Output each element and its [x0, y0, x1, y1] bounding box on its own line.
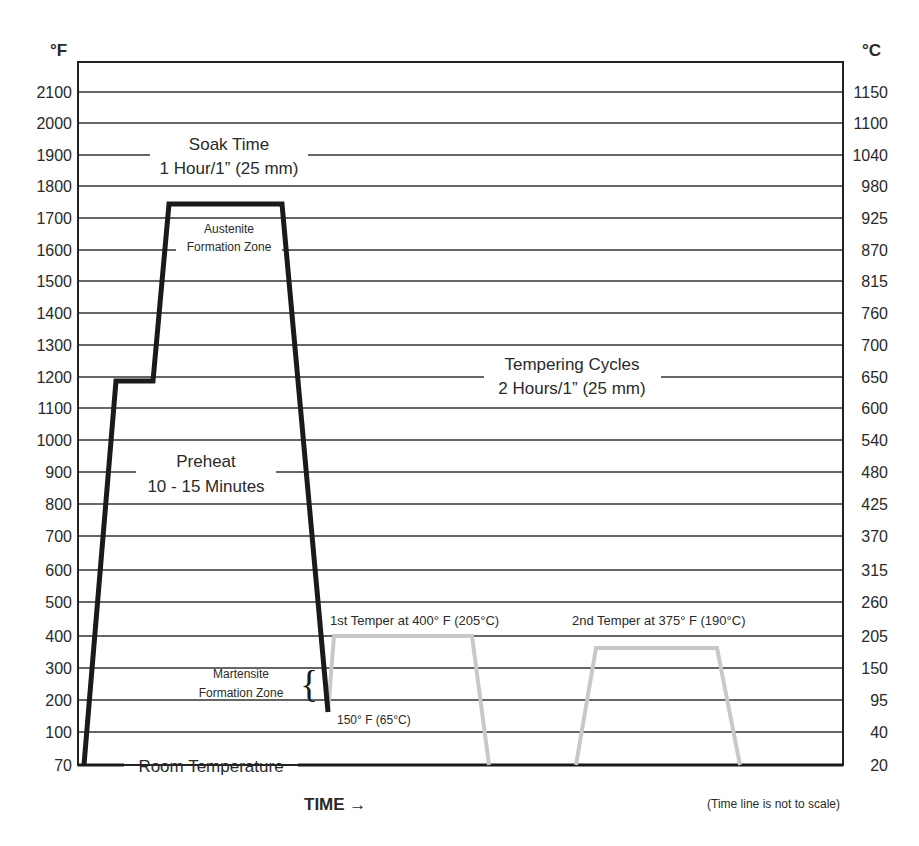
svg-text:200: 200	[45, 692, 72, 709]
first-temper-label: 1st Temper at 400° F (205°C)	[330, 613, 499, 628]
martensite-brace-icon: {	[300, 663, 318, 705]
svg-text:1900: 1900	[36, 147, 72, 164]
svg-text:95: 95	[870, 692, 888, 709]
svg-text:815: 815	[861, 273, 888, 290]
scale-note: (Time line is not to scale)	[707, 797, 840, 811]
svg-text:1100: 1100	[38, 400, 73, 417]
svg-text:1040: 1040	[852, 147, 888, 164]
svg-text:260: 260	[861, 594, 888, 611]
heat-treatment-chart: °F °C 2100 2000 1900 18	[0, 0, 919, 846]
svg-text:40: 40	[870, 724, 888, 741]
austenite-label-2: Formation Zone	[187, 240, 272, 254]
svg-text:1100: 1100	[854, 115, 889, 132]
preheat-title: Preheat	[176, 452, 236, 471]
svg-text:700: 700	[861, 337, 888, 354]
svg-text:500: 500	[45, 594, 72, 611]
svg-text:650: 650	[861, 369, 888, 386]
svg-text:1600: 1600	[36, 242, 72, 259]
svg-text:205: 205	[861, 628, 888, 645]
svg-text:925: 925	[861, 210, 888, 227]
y-axis-right-ticks: 1150 1100 1040 980 925 870 815 760 700 6…	[852, 84, 888, 774]
svg-text:1150: 1150	[854, 84, 889, 101]
tempering-title: Tempering Cycles	[504, 355, 639, 374]
svg-text:1300: 1300	[36, 337, 72, 354]
svg-text:480: 480	[861, 464, 888, 481]
svg-text:400: 400	[45, 628, 72, 645]
svg-text:315: 315	[861, 562, 888, 579]
svg-text:150: 150	[861, 660, 888, 677]
tempering-sub: 2 Hours/1” (25 mm)	[498, 379, 645, 398]
svg-text:600: 600	[861, 400, 888, 417]
soak-time-title: Soak Time	[189, 135, 269, 154]
x-axis-label: TIME →	[304, 795, 366, 814]
svg-text:300: 300	[45, 660, 72, 677]
svg-text:900: 900	[45, 464, 72, 481]
y-axis-left-ticks: 2100 2000 1900 1800 1700 1600 1500 1400 …	[36, 84, 72, 774]
svg-text:1400: 1400	[36, 305, 72, 322]
svg-text:2000: 2000	[36, 115, 72, 132]
svg-text:600: 600	[45, 562, 72, 579]
y-axis-left-unit: °F	[50, 41, 67, 60]
svg-text:800: 800	[45, 496, 72, 513]
martensite-label-1: Martensite	[213, 667, 269, 681]
second-temper-label: 2nd Temper at 375° F (190°C)	[572, 613, 745, 628]
y-axis-right-unit: °C	[862, 41, 881, 60]
svg-text:1800: 1800	[36, 178, 72, 195]
svg-text:760: 760	[861, 305, 888, 322]
room-temperature-label: Room Temperature	[138, 757, 283, 776]
svg-text:70: 70	[54, 757, 72, 774]
svg-text:1200: 1200	[36, 369, 72, 386]
svg-text:980: 980	[861, 178, 888, 195]
svg-text:100: 100	[45, 724, 72, 741]
svg-text:20: 20	[870, 757, 888, 774]
svg-text:870: 870	[861, 242, 888, 259]
svg-text:2100: 2100	[36, 84, 72, 101]
svg-text:1000: 1000	[36, 432, 72, 449]
second-temper-curve	[576, 648, 740, 765]
preheat-sub: 10 - 15 Minutes	[147, 477, 264, 496]
svg-text:1500: 1500	[36, 273, 72, 290]
soak-time-sub: 1 Hour/1” (25 mm)	[160, 159, 299, 178]
martensite-label-2: Formation Zone	[199, 686, 284, 700]
svg-text:425: 425	[861, 496, 888, 513]
austenite-label-1: Austenite	[204, 222, 254, 236]
svg-text:370: 370	[861, 528, 888, 545]
svg-text:700: 700	[45, 528, 72, 545]
svg-text:1700: 1700	[36, 210, 72, 227]
quench-low-label: 150° F (65°C)	[337, 713, 411, 727]
svg-text:540: 540	[861, 432, 888, 449]
